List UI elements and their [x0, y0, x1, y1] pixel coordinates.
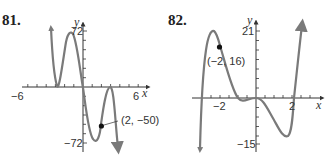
x-label-neg6: −6	[11, 90, 24, 102]
graph-81: −6 6 x y 72 −72 (2, −50)	[11, 15, 159, 152]
y-ticks-82	[256, 31, 260, 144]
x-label-neg2: −2	[213, 100, 226, 112]
y-label-neg15: −15	[237, 138, 256, 150]
y-label-neg72: −72	[64, 137, 83, 149]
x-axis-label-82: x	[315, 98, 322, 112]
point-label-neg2-16: (−2, 16)	[207, 55, 245, 67]
curve-82	[200, 25, 302, 148]
graph-82: −2 2 x y 21 −15 (−2, 16)	[192, 13, 322, 152]
x-label-2: 2	[289, 100, 295, 112]
point-neg2-16	[217, 44, 222, 49]
point-2-neg50	[99, 123, 104, 128]
x-label-6: 6	[133, 90, 139, 102]
point-label-2-neg50: (2, −50)	[121, 114, 159, 126]
x-axis-label-81: x	[141, 86, 148, 100]
y-label-21: 21	[242, 25, 254, 37]
curve-81	[51, 28, 118, 148]
graphs-canvas: −6 6 x y 72 −72 (2, −50)	[0, 0, 332, 164]
y-label-72: 72	[71, 25, 83, 37]
